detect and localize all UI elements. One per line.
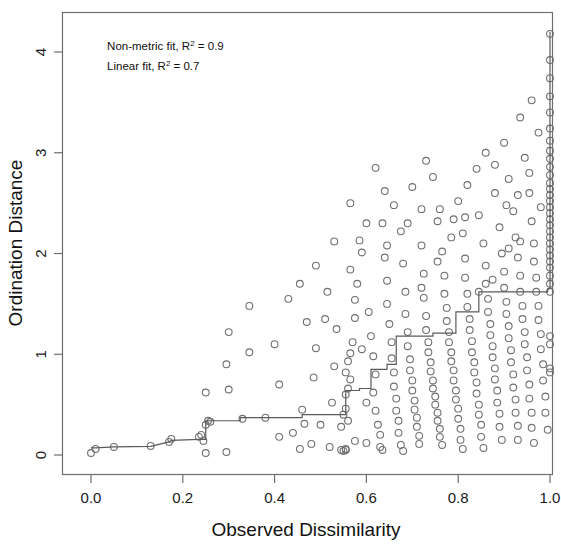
data-point [503,298,510,305]
data-point [464,304,471,311]
data-point [423,157,430,164]
data-point [494,387,501,394]
data-point [469,349,476,356]
data-point [508,359,515,366]
data-point [246,349,253,356]
data-point [510,371,517,378]
data-point [395,417,402,424]
data-point [404,343,411,350]
data-point [448,234,455,241]
data-point [501,284,508,291]
data-point [489,343,496,350]
data-point [531,440,538,447]
data-point [478,433,485,440]
data-point [413,423,420,430]
data-point [512,409,519,416]
data-point [473,165,480,172]
data-point [322,316,329,323]
data-point [542,409,549,416]
data-point [313,262,320,269]
data-point [453,396,460,403]
data-point [512,234,519,241]
data-point [418,206,425,213]
data-point [202,450,209,457]
data-point [494,399,501,406]
data-point [379,220,386,227]
data-point [528,218,535,225]
data-point [487,332,494,339]
data-point [505,335,512,342]
fit-statistics-annotation: Non-metric fit, R2 = 0.9Linear fit, R2 =… [107,39,224,73]
data-point [404,220,411,227]
data-point [496,410,503,417]
data-point [381,188,388,195]
data-point [521,329,528,336]
data-point [492,161,499,168]
data-point [223,449,230,456]
data-point [384,277,391,284]
data-point [420,270,427,277]
data-point [528,424,535,431]
data-point [423,313,430,320]
data-point [526,381,533,388]
data-point [535,302,542,309]
data-point [345,358,352,365]
data-point [370,353,377,360]
data-point [526,190,533,197]
x-tick-label: 0.8 [448,489,469,506]
data-point [434,417,441,424]
data-point [386,321,393,328]
data-point [372,371,379,378]
plot-frame [63,13,553,475]
data-point [510,208,517,215]
data-point [407,367,414,374]
x-axis-ticks [91,475,550,483]
data-point [384,300,391,307]
data-point [535,317,542,324]
data-point [505,245,512,252]
data-point [347,266,354,273]
data-point [411,397,418,404]
data-point [347,376,354,383]
data-point [352,315,359,322]
data-point [349,339,356,346]
data-point [395,429,402,436]
data-point [393,395,400,402]
data-point [439,442,446,449]
data-point [276,433,283,440]
data-point [537,331,544,338]
data-point [443,318,450,325]
data-point [365,309,372,316]
data-point [317,421,324,428]
data-point [505,323,512,330]
data-point [434,258,441,265]
data-point [455,415,462,422]
data-point [363,220,370,227]
data-point [526,170,533,177]
data-point [436,433,443,440]
data-point [276,381,283,388]
data-point [455,405,462,412]
data-point [503,202,510,209]
data-point [388,339,395,346]
data-point [246,302,253,309]
data-point [434,409,441,416]
data-point [333,326,340,333]
data-point [430,174,437,181]
data-point [473,390,480,397]
data-point [425,339,432,346]
data-point [508,347,515,354]
data-point [347,350,354,357]
data-point [409,387,416,394]
data-point [528,97,535,104]
data-point [540,377,547,384]
x-axis-tick-labels: 0.00.20.40.60.81.0 [81,489,561,506]
data-point [225,386,232,393]
data-point [439,248,446,255]
data-point [425,349,432,356]
data-point [290,429,297,436]
x-tick-label: 0.0 [81,489,102,506]
data-point [512,396,519,403]
x-tick-label: 1.0 [540,489,561,506]
data-point [352,437,359,444]
